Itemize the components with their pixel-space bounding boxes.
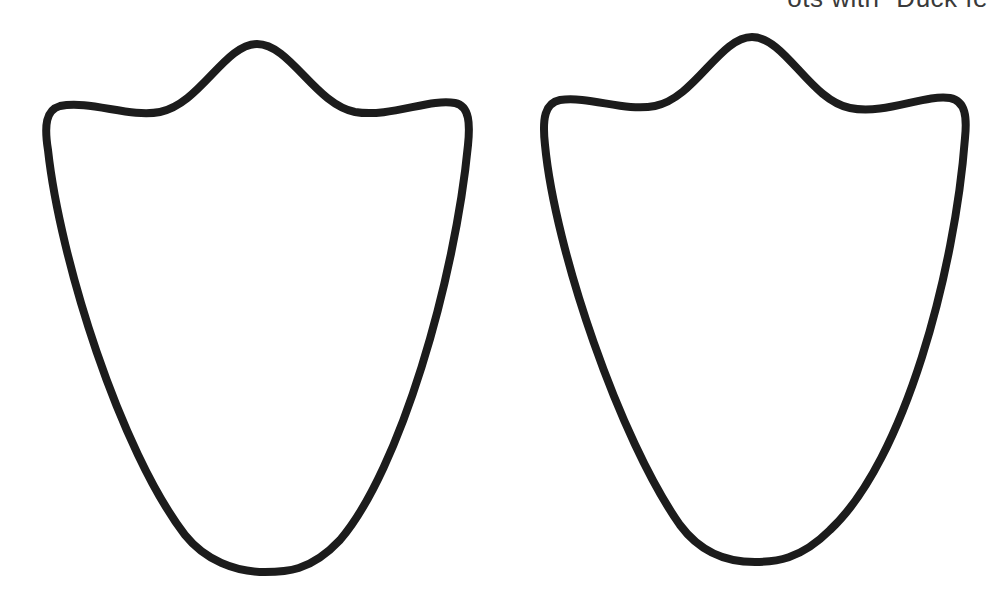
- duck-foot-template-right: [544, 37, 966, 562]
- duck-foot-template-left: [46, 44, 469, 572]
